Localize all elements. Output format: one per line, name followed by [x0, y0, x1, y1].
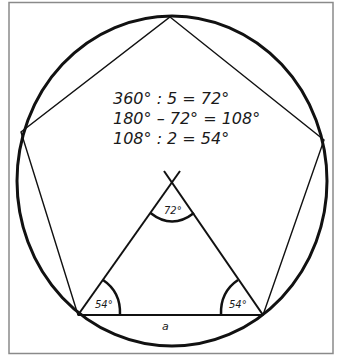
base-right-angle-label: 54° — [229, 299, 247, 310]
pentagon-diagram: 360° : 5 = 72° 180° – 72° = 108° 108° : … — [0, 0, 339, 361]
frame-border — [9, 3, 333, 354]
equation-1: 360° : 5 = 72° — [113, 89, 229, 108]
triangle-left-side — [78, 171, 180, 315]
side-a-label: a — [162, 320, 169, 333]
apex-angle-label: 72° — [164, 205, 182, 216]
base-left-angle-label: 54° — [95, 299, 113, 310]
equation-3: 108° : 2 = 54° — [113, 129, 229, 148]
diagram-canvas: 360° : 5 = 72° 180° – 72° = 108° 108° : … — [0, 0, 339, 361]
equation-2: 180° – 72° = 108° — [113, 109, 260, 128]
triangle-right-side — [164, 171, 263, 315]
